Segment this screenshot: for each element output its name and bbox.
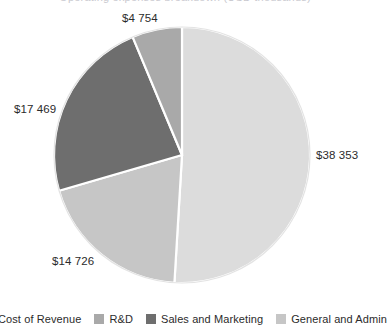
legend-swatch-icon — [276, 314, 286, 324]
legend-item[interactable]: General and Admin — [276, 313, 387, 325]
pie-slice[interactable] — [174, 27, 310, 283]
chart-legend: Cost of RevenueR&DSales and MarketingGen… — [0, 308, 370, 330]
slice-value-label-cost-of-revenue: $38 353 — [316, 149, 358, 161]
legend-item-label: R&D — [109, 313, 133, 325]
legend-item-label: Sales and Marketing — [161, 313, 263, 325]
legend-item-label: Cost of Revenue — [0, 313, 81, 325]
pie-slice-group — [54, 27, 310, 283]
slice-value-label-general-and-admin: $14 726 — [52, 255, 94, 267]
legend-item[interactable]: Sales and Marketing — [146, 313, 263, 325]
legend-item[interactable]: R&D — [94, 313, 133, 325]
slice-value-label-sales-and-marketing: $17 469 — [14, 103, 56, 115]
legend-swatch-icon — [94, 314, 104, 324]
legend-item-label: General and Admin — [291, 313, 387, 325]
slice-value-label-rnd: $4 754 — [122, 12, 158, 24]
legend-item[interactable]: Cost of Revenue — [0, 313, 81, 325]
pie-plot-area: $38 353 $14 726 $17 469 $4 754 — [0, 0, 370, 300]
legend-swatch-icon — [146, 314, 156, 324]
